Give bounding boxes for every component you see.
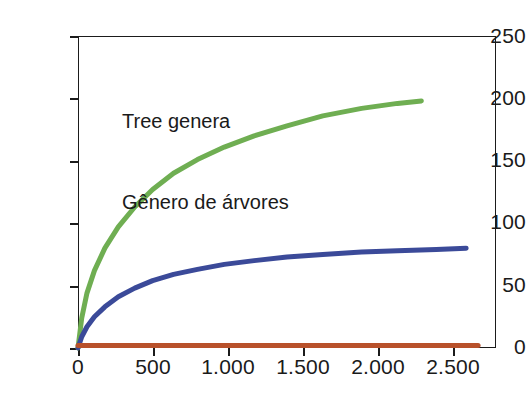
y-tick-mark-200 [70, 98, 78, 100]
chart-figure: 250 200 150 100 50 0 0 500 1.000 1.500 2… [0, 0, 526, 413]
chart-annotation: Tree genera Gênero de árvores [122, 54, 289, 270]
annotation-line-pt: Gênero de árvores [122, 189, 289, 216]
y-tick-mark-100 [70, 223, 78, 225]
x-tick-label-2500: 2.500 [398, 356, 508, 377]
annotation-line-en: Tree genera [122, 108, 289, 135]
y-tick-mark-250 [70, 36, 78, 38]
y-tick-mark-50 [70, 286, 78, 288]
y-tick-mark-150 [70, 161, 78, 163]
